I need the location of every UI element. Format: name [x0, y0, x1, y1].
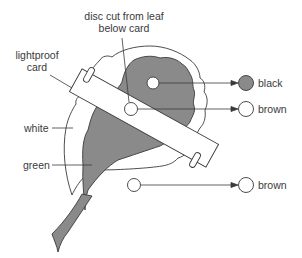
- result-label-brown-2: brown: [258, 179, 287, 191]
- leader-lightproof-card: [50, 75, 72, 88]
- label-green: green: [23, 159, 50, 171]
- label-lightproof-line1: lightproof: [12, 49, 62, 61]
- result-label-black: black: [258, 77, 283, 89]
- result-disc-brown-1: [239, 102, 254, 117]
- result-disc-black: [239, 76, 254, 91]
- label-disc-cut: disc cut from leaf below card: [80, 10, 168, 34]
- disc-hole-green-uncovered: [147, 77, 159, 89]
- label-lightproof-line2: card: [12, 61, 62, 73]
- disc-hole-white-area: [128, 179, 141, 192]
- leaf-starch-test-diagram: disc cut from leaf below card lightproof…: [0, 0, 302, 258]
- leaf-stem: [52, 194, 92, 252]
- label-disc-cut-line2: below card: [80, 22, 168, 34]
- label-disc-cut-line1: disc cut from leaf: [80, 10, 168, 22]
- disc-hole-under-card: [125, 103, 138, 116]
- result-disc-brown-2: [239, 178, 254, 193]
- label-lightproof-card: lightproof card: [12, 49, 62, 73]
- result-label-brown-1: brown: [258, 103, 287, 115]
- label-white: white: [24, 122, 49, 134]
